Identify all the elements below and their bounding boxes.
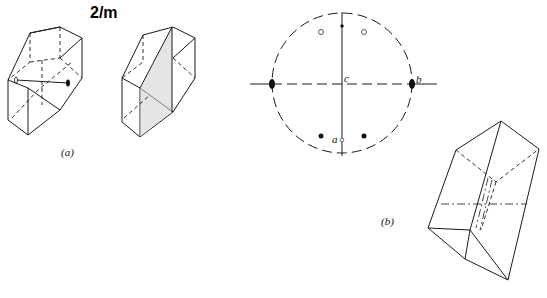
crystal-mirror-plane [122, 27, 195, 137]
pole-dot-top-icon [340, 24, 343, 27]
crystal-2fold-axis [8, 27, 82, 135]
filled-dot-icon [319, 134, 324, 139]
panel-b-label: (b) [381, 215, 394, 228]
crystal-oblique-prism [428, 121, 539, 280]
mirror-plane-shading [140, 27, 172, 137]
axis-label-a: a [332, 133, 338, 145]
filled-dot-icon [362, 134, 367, 139]
stereogram: c b a [250, 12, 437, 156]
axis-label-c: c [344, 72, 349, 84]
pole-open-bottom-icon [340, 138, 344, 142]
axis-label-b: b [416, 73, 422, 85]
twofold-symbol-left-icon [269, 79, 275, 89]
point-group-title: 2/m [90, 4, 118, 21]
panel-a-label: (a) [61, 146, 74, 159]
axis-end-open-icon [15, 77, 18, 83]
crystal-symmetry-figure: 2/m (a) [0, 0, 547, 298]
twofold-symbol-right-icon [409, 79, 415, 89]
twofold-axis-icon [66, 80, 70, 87]
open-circle-icon [362, 30, 367, 35]
open-circle-icon [319, 30, 324, 35]
